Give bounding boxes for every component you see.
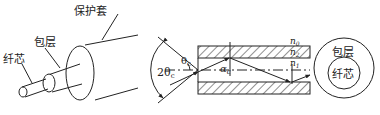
- core-top-edge: [22, 79, 46, 87]
- lower-cladding: [198, 82, 310, 94]
- cladding-label: 包层: [34, 36, 56, 49]
- core-end-face: [19, 87, 27, 97]
- cross-section-cladding-label: 包层: [332, 46, 354, 59]
- n0-label: n0: [290, 36, 300, 47]
- jacket-end-face: [66, 46, 94, 100]
- jacket-top-edge: [85, 35, 138, 45]
- cladding-leader-line: [45, 48, 60, 68]
- alpha-label: αc: [220, 63, 231, 76]
- jacket-bottom-edge: [95, 88, 138, 100]
- reflected-ray-2: [292, 75, 310, 82]
- cross-section-core-label: 纤芯: [332, 67, 354, 81]
- diagram-svg: 保护套 包层 纤芯 2θc θc αc n0 n2 n1 包层: [0, 0, 380, 115]
- fiber-cable-illustration: [19, 14, 138, 100]
- cladding-top-edge: [48, 64, 80, 75]
- cladding-end-face: [43, 74, 55, 92]
- core-leader-line: [22, 64, 32, 83]
- core-label: 纤芯: [3, 52, 25, 66]
- n1-label: n1: [290, 58, 300, 69]
- core-bottom-edge: [25, 89, 48, 97]
- optical-fiber-diagram: 保护套 包层 纤芯 2θc θc αc n0 n2 n1 包层: [0, 0, 380, 115]
- acceptance-angle-label: 2θc: [157, 66, 175, 80]
- theta-label: θc: [181, 55, 191, 68]
- jacket-label: 保护套: [74, 4, 107, 18]
